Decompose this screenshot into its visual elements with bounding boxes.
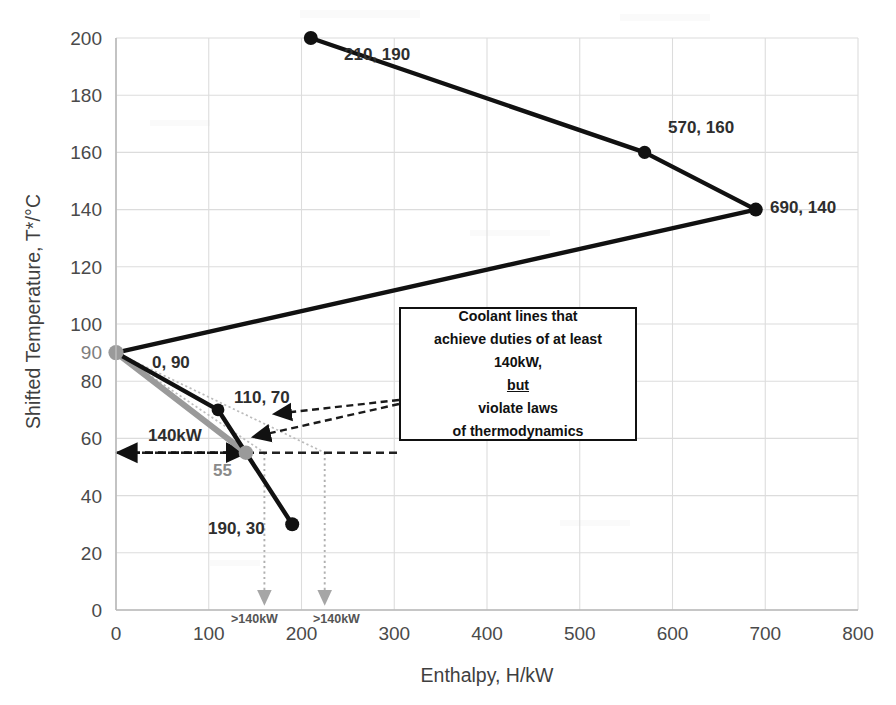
callout-textbox: Coolant lines that achieve duties of at … bbox=[399, 307, 637, 441]
x-tick-300: 300 bbox=[364, 623, 424, 645]
duty-arrow-label: 140kW bbox=[148, 426, 202, 446]
point-label-210-190: 210, 190 bbox=[344, 45, 410, 65]
x-tick-0: 0 bbox=[86, 623, 146, 645]
y-tick-60: 60 bbox=[40, 428, 102, 450]
x-tick-700: 700 bbox=[735, 623, 795, 645]
y-tick-0: 0 bbox=[40, 600, 102, 622]
x-tick-600: 600 bbox=[643, 623, 703, 645]
y-tick-180: 180 bbox=[40, 85, 102, 107]
x-axis-title: Enthalpy, H/kW bbox=[116, 664, 858, 687]
drop-arrow-label-2: >140kW bbox=[313, 612, 360, 626]
callout-line-3: 140kW, but violate laws bbox=[478, 351, 558, 420]
y-tick-90: 90 bbox=[40, 342, 102, 364]
y-tick-200: 200 bbox=[40, 28, 102, 50]
drop-arrow-label-1: >140kW bbox=[231, 612, 278, 626]
marker-690-140 bbox=[749, 203, 763, 217]
callout-line-1: Coolant lines that bbox=[458, 305, 577, 328]
point-label-570-160: 570, 160 bbox=[668, 118, 734, 138]
y-tick-20: 20 bbox=[40, 543, 102, 565]
marker-140-55 bbox=[239, 446, 253, 460]
point-label-110-70: 110, 70 bbox=[234, 388, 290, 408]
callout-line-3-prefix: 140kW, bbox=[478, 351, 558, 374]
chart-container: 200 180 160 140 120 100 90 80 60 40 20 0… bbox=[0, 0, 896, 705]
marker-110-70 bbox=[212, 403, 225, 416]
marker-210-190 bbox=[304, 31, 318, 45]
callout-line-2: achieve duties of at least bbox=[434, 328, 602, 351]
callout-leader-1 bbox=[274, 400, 399, 414]
hot-composite-curve bbox=[116, 38, 756, 353]
callout-line-3-suffix: violate laws bbox=[478, 397, 558, 420]
x-tick-500: 500 bbox=[550, 623, 610, 645]
callout-line-4: of thermodynamics bbox=[453, 420, 584, 443]
y-axis-title: Shifted Temperature, T*/°C bbox=[22, 97, 45, 527]
marker-190-30 bbox=[285, 517, 299, 531]
x-tick-800: 800 bbox=[828, 623, 888, 645]
y-tick-140: 140 bbox=[40, 199, 102, 221]
x-tick-100: 100 bbox=[179, 623, 239, 645]
y-tick-160: 160 bbox=[40, 142, 102, 164]
point-label-690-140: 690, 140 bbox=[770, 198, 836, 218]
point-label-55: 55 bbox=[213, 461, 232, 481]
y-tick-40: 40 bbox=[40, 486, 102, 508]
y-tick-80: 80 bbox=[40, 371, 102, 393]
x-tick-200: 200 bbox=[272, 623, 332, 645]
y-tick-100: 100 bbox=[40, 314, 102, 336]
callout-underlined-word: but bbox=[478, 374, 558, 397]
x-tick-400: 400 bbox=[457, 623, 517, 645]
marker-570-160 bbox=[638, 146, 651, 159]
y-tick-120: 120 bbox=[40, 257, 102, 279]
point-label-190-30: 190, 30 bbox=[208, 519, 265, 539]
point-label-0-90: 0, 90 bbox=[152, 353, 190, 373]
